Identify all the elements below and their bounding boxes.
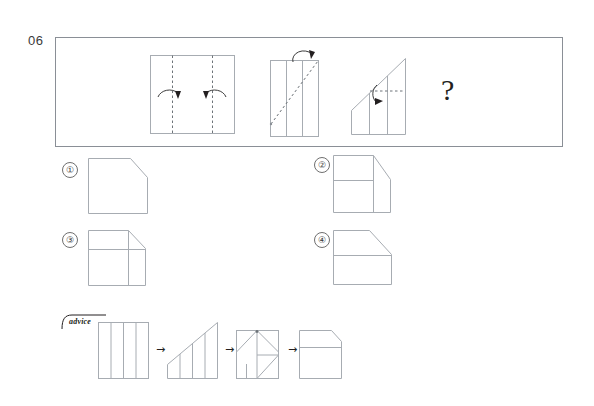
fold-arrow-left <box>158 90 178 97</box>
option-4-number[interactable]: ④ <box>314 232 330 248</box>
fold-arrow-left-head <box>175 91 181 99</box>
option-3-figure[interactable] <box>88 230 152 290</box>
advice-arrow-1: → <box>156 344 165 355</box>
diagonal-fold-endpoint <box>270 123 272 125</box>
option-2-figure[interactable] <box>333 155 397 217</box>
fold-arrow-right-head <box>375 98 383 105</box>
option-1-number[interactable]: ① <box>62 162 78 178</box>
problem-step-2 <box>262 46 324 141</box>
fold-arrow-top-head <box>309 50 315 59</box>
option-2-number[interactable]: ② <box>314 157 330 173</box>
option-1-figure[interactable] <box>88 158 150 216</box>
problem-step-1 <box>150 55 236 135</box>
question-mark: ? <box>441 75 454 105</box>
advice-apex-dot <box>256 330 259 333</box>
advice-step-1 <box>98 322 150 380</box>
advice-step-2 <box>167 322 219 380</box>
option-3-number[interactable]: ③ <box>62 232 78 248</box>
advice-arrow-3: → <box>288 344 297 355</box>
advice-step-3 <box>236 330 280 380</box>
question-number: 06 <box>28 33 43 48</box>
page-canvas: 06 <box>0 0 594 406</box>
option-4-figure[interactable] <box>333 230 397 288</box>
advice-text: advice <box>69 317 91 326</box>
problem-step-3 <box>348 55 414 137</box>
diagonal-fold-line <box>271 61 318 124</box>
advice-step-4 <box>299 330 343 380</box>
fold-arrow-right-head <box>203 91 209 99</box>
advice-arrow-2: → <box>225 344 234 355</box>
fold-arrow-right <box>206 90 226 97</box>
